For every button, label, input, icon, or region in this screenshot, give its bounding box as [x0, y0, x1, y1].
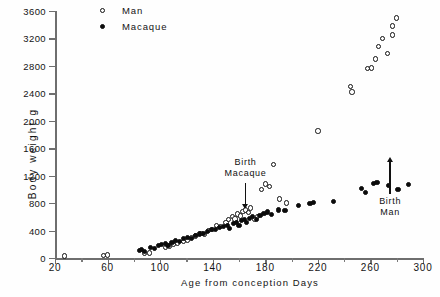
y-tick	[49, 231, 55, 232]
data-point-man	[105, 252, 110, 257]
x-minor-tick	[292, 258, 293, 262]
x-minor-tick	[344, 258, 345, 262]
x-tick-label: 140	[203, 262, 222, 273]
data-point-man	[349, 89, 354, 94]
x-tick-label: 260	[361, 262, 380, 273]
filled-circle-icon	[100, 24, 105, 29]
open-circle-icon	[100, 8, 105, 13]
y-axis-title: Body weight g	[27, 94, 38, 214]
data-point-man	[394, 15, 399, 20]
y-tick-label: 1200	[4, 170, 46, 181]
data-point-macaque	[142, 249, 147, 254]
data-point-man	[315, 128, 320, 133]
data-point-macaque	[269, 212, 274, 217]
annotation-line2: Man	[380, 207, 400, 217]
y-tick-label: 2400	[4, 88, 46, 99]
x-minor-tick	[134, 258, 135, 262]
annotation-arrow-head	[387, 157, 393, 162]
data-point-man	[62, 253, 67, 258]
y-tick	[49, 11, 55, 12]
annotation-line1: Birth	[379, 196, 401, 206]
annotation-macaque: BirthMacaque	[206, 157, 286, 179]
x-tick-label: 220	[308, 262, 327, 273]
x-minor-tick	[186, 258, 187, 262]
y-tick	[49, 121, 55, 122]
chart-legend: Man Macaque	[100, 2, 167, 34]
data-point-man	[284, 200, 289, 205]
annotation-arrow-head	[242, 204, 248, 209]
data-point-man	[267, 184, 272, 189]
data-point-macaque	[374, 180, 379, 185]
data-point-macaque	[395, 187, 400, 192]
data-point-man	[385, 51, 390, 56]
data-point-macaque	[227, 226, 232, 231]
x-tick-label: 20	[49, 262, 62, 273]
data-point-man	[376, 44, 381, 49]
x-minor-tick	[397, 258, 398, 262]
data-point-macaque	[236, 223, 241, 228]
y-tick-label: 3200	[4, 33, 46, 44]
data-point-macaque	[406, 182, 411, 187]
data-point-man	[277, 196, 282, 201]
y-tick	[49, 148, 55, 149]
data-point-man	[390, 23, 395, 28]
y-tick-label: 2800	[4, 60, 46, 71]
data-point-macaque	[296, 203, 301, 208]
annotation-line1: Birth	[235, 157, 257, 167]
data-point-macaque	[276, 207, 281, 212]
y-tick	[49, 38, 55, 39]
x-tick-label: 100	[151, 262, 170, 273]
y-axis-line	[55, 11, 57, 259]
x-axis-title: Age from conception Days	[130, 277, 370, 288]
data-point-man	[259, 187, 264, 192]
data-point-man	[390, 32, 395, 37]
data-point-man	[373, 56, 378, 61]
y-tick-label: 400	[4, 225, 46, 236]
legend-item-macaque: Macaque	[100, 18, 167, 34]
y-tick-label: 2000	[4, 115, 46, 126]
legend-label-man: Man	[122, 5, 143, 16]
y-tick	[49, 203, 55, 204]
annotation-line2: Macaque	[225, 168, 267, 178]
chart-figure: Man Macaque 0400800120016002000240028003…	[0, 0, 440, 297]
y-tick	[49, 66, 55, 67]
annotation-arrow-shaft	[245, 183, 246, 205]
data-point-man	[369, 65, 374, 70]
y-tick-label: 0	[4, 253, 46, 264]
legend-label-macaque: Macaque	[122, 21, 167, 32]
x-tick-label: 180	[256, 262, 275, 273]
data-point-macaque	[363, 190, 368, 195]
annotation-man: BirthMan	[350, 196, 430, 218]
y-tick	[49, 93, 55, 94]
x-tick-label: 300	[413, 262, 432, 273]
y-tick	[49, 176, 55, 177]
y-tick-label: 3600	[4, 6, 46, 17]
y-tick-label: 800	[4, 198, 46, 209]
data-point-macaque	[282, 208, 287, 213]
x-minor-tick	[239, 258, 240, 262]
x-minor-tick	[81, 258, 82, 262]
data-point-man	[147, 250, 152, 255]
data-point-man	[380, 36, 385, 41]
x-tick-label: 60	[101, 262, 114, 273]
data-point-man	[248, 205, 253, 210]
legend-item-man: Man	[100, 2, 167, 18]
y-tick-label: 1600	[4, 143, 46, 154]
data-point-macaque	[331, 199, 336, 204]
annotation-arrow-shaft	[389, 162, 390, 194]
data-point-macaque	[311, 200, 316, 205]
